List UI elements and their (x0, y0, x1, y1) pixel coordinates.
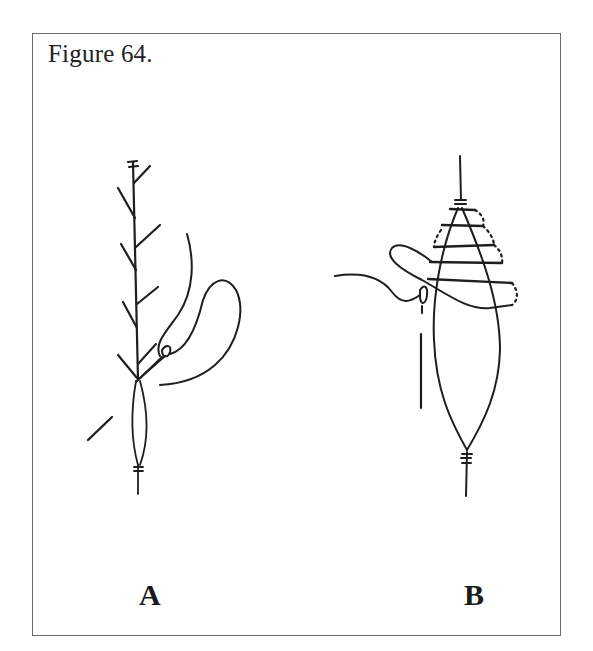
panel-b-illustration (0, 0, 593, 651)
panel-label-b: B (464, 578, 484, 612)
panel-b-wraps (428, 209, 512, 283)
panel-label-a: A (139, 578, 161, 612)
panel-b-loop (335, 245, 512, 313)
